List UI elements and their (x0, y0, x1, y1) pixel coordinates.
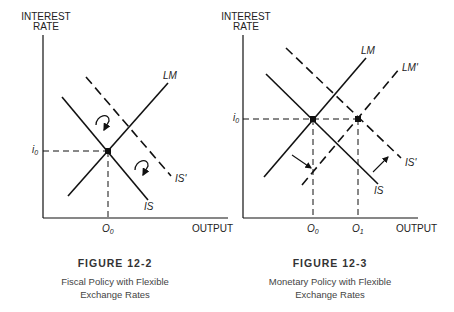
o1-label: O1 (352, 224, 364, 237)
figure-caption: Fiscal Policy with Flexible Exchange Rat… (30, 275, 200, 301)
x-axis-label: OUTPUT (396, 224, 437, 234)
lm-prime-label: LM' (402, 63, 418, 73)
is-curve (266, 74, 378, 184)
o0-label: O0 (102, 224, 114, 237)
y-axis-label: INTEREST RATE (220, 12, 272, 32)
shift-arrow-icon (292, 155, 311, 168)
is-prime-curve (286, 48, 401, 158)
equilibrium-point (105, 148, 111, 154)
curl-arrow-icon (135, 161, 148, 175)
is-label: IS (144, 202, 153, 212)
curl-arrow-icon (96, 116, 109, 130)
x-axis-label: OUTPUT (192, 224, 233, 234)
y-axis-label: INTEREST RATE (20, 12, 72, 32)
lm-prime-curve (302, 68, 400, 185)
equilibrium-point-1 (355, 116, 361, 122)
shift-arrow-icon (373, 157, 388, 172)
is-prime-label: IS' (175, 174, 186, 184)
is-label: IS (374, 186, 383, 196)
i0-label: i0 (32, 145, 38, 158)
is-prime-label: IS' (405, 158, 416, 168)
figure-title: FIGURE 12-2 (40, 257, 190, 269)
lm-label: LM (163, 71, 177, 81)
lm-label: LM (361, 46, 375, 56)
lm-curve (68, 83, 168, 196)
equilibrium-point-0 (310, 116, 316, 122)
figure-caption: Monetary Policy with Flexible Exchange R… (240, 275, 420, 301)
figure-12-3-plot (243, 35, 418, 218)
o0-label: O0 (307, 224, 319, 237)
figure-12-2-plot (43, 35, 228, 218)
i0-label: i0 (233, 113, 239, 126)
figure-title: FIGURE 12-3 (255, 257, 405, 269)
